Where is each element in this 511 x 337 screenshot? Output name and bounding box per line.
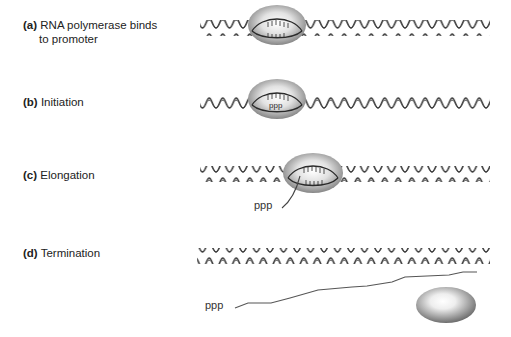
dna-helix — [197, 248, 490, 264]
ppp-in-enzyme: ppp — [269, 101, 283, 110]
transcription-diagram: ppp — [0, 0, 511, 337]
stage-c-graphic — [200, 153, 490, 208]
stage-d-graphic — [197, 248, 490, 323]
stage-a-graphic — [200, 5, 490, 45]
stage-b-graphic: ppp — [200, 79, 490, 119]
released-polymerase-icon — [416, 287, 476, 323]
dna-helix-right — [300, 20, 490, 36]
